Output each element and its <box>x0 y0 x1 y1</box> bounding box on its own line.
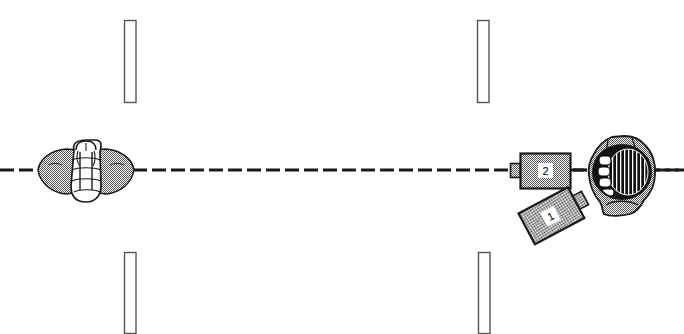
technical-figure-canvas: 2 1 <box>0 0 684 334</box>
post-bottom-left <box>125 253 137 334</box>
callout-label-2: 2 <box>542 165 548 177</box>
post-top-left <box>125 21 137 103</box>
post-bottom-right <box>479 253 491 334</box>
post-top-right <box>478 21 490 103</box>
right-hand-gripping-cylinder <box>589 136 656 216</box>
inline-device-body: 2 <box>511 154 571 189</box>
tilted-device-body: 1 <box>519 182 594 244</box>
left-hand-fist <box>38 140 134 202</box>
